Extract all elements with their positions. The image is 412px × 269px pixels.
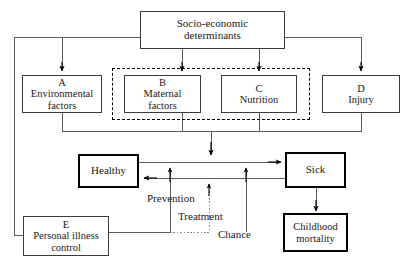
node-d-injury[interactable]: D Injury	[322, 75, 400, 113]
node-socio-economic-determinants[interactable]: Socio-economic determinants	[140, 11, 285, 49]
node-d-letter: D	[357, 83, 365, 94]
node-mortality-line1: Childhood	[293, 221, 337, 232]
node-c-nutrition[interactable]: C Nutrition	[221, 75, 297, 113]
wire-socio-to-personal-illness-control	[14, 37, 140, 235]
node-healthy-label: Healthy	[91, 165, 126, 177]
node-childhood-mortality[interactable]: Childhood mortality	[283, 213, 348, 252]
node-e-personal-illness-control[interactable]: E Personal illness control	[23, 216, 109, 256]
node-sick[interactable]: Sick	[285, 152, 346, 188]
edge-label-prevention: Prevention	[147, 192, 195, 204]
node-c-letter: C	[255, 83, 262, 94]
edge-label-chance: Chance	[218, 228, 251, 240]
node-a-line1: Environmental	[31, 88, 93, 99]
node-e-line1: Personal illness	[33, 230, 99, 241]
node-d-line1: Injury	[348, 94, 374, 105]
node-a-environmental-factors[interactable]: A Environmental factors	[22, 75, 102, 113]
edge-label-treatment: Treatment	[178, 210, 223, 222]
node-mortality-line2: mortality	[296, 233, 335, 244]
node-socio-line2: determinants	[184, 30, 241, 42]
node-e-line2: control	[51, 242, 81, 253]
node-b-maternal-factors[interactable]: B Maternal factors	[124, 75, 201, 113]
node-a-letter: A	[58, 77, 66, 88]
node-sick-label: Sick	[306, 164, 326, 176]
node-b-line2: factors	[148, 100, 177, 111]
node-healthy[interactable]: Healthy	[78, 154, 139, 188]
node-b-line1: Maternal	[144, 88, 182, 99]
node-a-line2: factors	[48, 100, 77, 111]
wire-socio-to-injury	[285, 37, 361, 68]
node-b-letter: B	[159, 77, 166, 88]
node-c-line1: Nutrition	[240, 94, 279, 105]
flowchart-diagram: Socio-economic determinants A Environmen…	[0, 0, 412, 269]
node-e-letter: E	[63, 219, 69, 230]
